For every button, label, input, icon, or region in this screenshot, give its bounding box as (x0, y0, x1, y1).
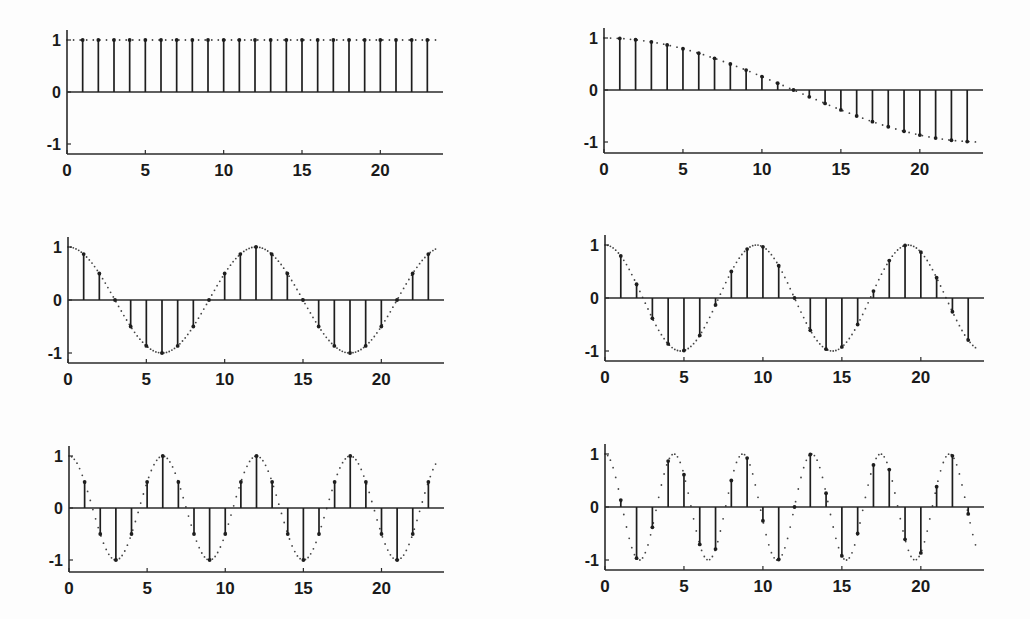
y-tick-label: 0 (590, 499, 599, 516)
stem-marker (332, 344, 336, 348)
stem-marker (714, 547, 718, 551)
stem (776, 81, 780, 90)
stem-marker (395, 558, 399, 562)
stem (903, 507, 907, 541)
stem (856, 298, 860, 326)
stem (130, 508, 134, 536)
stem-marker (761, 519, 765, 523)
stem (777, 264, 781, 298)
stem-marker (650, 525, 654, 529)
stem (378, 38, 382, 92)
stem (145, 480, 149, 508)
stem-marker (744, 68, 748, 72)
stem-marker (128, 38, 132, 42)
x-tick-label: 5 (679, 368, 688, 387)
stem (410, 38, 414, 92)
stem (270, 480, 274, 508)
x-tick-label: 20 (911, 577, 930, 596)
stem-marker (935, 485, 939, 489)
stem (698, 298, 702, 337)
stem (363, 38, 367, 92)
stem-marker (348, 454, 352, 458)
stem (919, 250, 923, 298)
stem-marker (713, 56, 717, 60)
stem (871, 90, 875, 124)
stem-marker (284, 38, 288, 42)
stem-marker (394, 38, 398, 42)
stem-marker (728, 62, 732, 66)
stem-marker (665, 43, 669, 47)
stem (872, 463, 876, 507)
x-tick-label: 5 (142, 579, 151, 598)
stem (98, 508, 102, 536)
panel-row1-right: 10-105101520 (584, 28, 983, 179)
stem (634, 38, 638, 90)
x-tick-label: 20 (911, 368, 930, 387)
stem-marker (348, 351, 352, 355)
y-tick-label: 0 (53, 292, 62, 309)
y-tick-label: 1 (53, 239, 62, 256)
stem (254, 245, 258, 300)
stem-marker (856, 323, 860, 327)
stem-marker (112, 38, 116, 42)
stem (887, 468, 891, 507)
stem (635, 282, 639, 298)
stem-marker (887, 468, 891, 472)
stem-marker (887, 259, 891, 263)
stem (919, 507, 923, 555)
stem-marker (98, 532, 102, 536)
y-tick-label: 1 (590, 446, 599, 463)
x-tick-label: 20 (372, 370, 391, 389)
stem (143, 38, 147, 92)
stem-marker (856, 532, 860, 536)
stem-marker (190, 38, 194, 42)
stem (951, 298, 955, 314)
stem (348, 454, 352, 508)
stem (161, 454, 165, 508)
stem (728, 62, 732, 90)
stem (714, 507, 718, 551)
stem-marker (378, 38, 382, 42)
stem (395, 298, 399, 302)
stem-marker (682, 473, 686, 477)
x-tick-label: 15 (294, 370, 313, 389)
stem (191, 300, 195, 328)
stem-marker (129, 325, 133, 329)
x-tick-label: 0 (599, 160, 608, 179)
stem (317, 508, 321, 536)
stem-marker (823, 102, 827, 106)
stem (823, 90, 827, 105)
stem (650, 298, 654, 320)
stem (856, 507, 860, 535)
stem (364, 300, 368, 348)
stem (301, 298, 305, 302)
stem-marker (144, 344, 148, 348)
y-tick-label: -1 (49, 552, 63, 569)
stem-marker (760, 75, 764, 79)
stem-marker (300, 38, 304, 42)
stem-marker (619, 254, 623, 258)
stem (223, 508, 227, 536)
stem (394, 38, 398, 92)
y-tick-label: 0 (590, 290, 599, 307)
x-tick-label: 10 (216, 579, 235, 598)
stem-marker (839, 108, 843, 112)
y-tick-label: -1 (585, 343, 599, 360)
stem-marker (175, 38, 179, 42)
stem-marker (363, 38, 367, 42)
y-tick-label: 1 (589, 30, 598, 47)
stem (144, 300, 148, 348)
stem-marker (237, 38, 241, 42)
stem (729, 270, 733, 298)
stem-marker (761, 245, 765, 249)
stem (206, 38, 210, 92)
stem-marker (238, 252, 242, 256)
stem-marker (82, 252, 86, 256)
stem-marker (255, 454, 259, 458)
stem (903, 244, 907, 298)
stem-marker (776, 81, 780, 85)
stem (208, 508, 212, 562)
stem-marker (96, 38, 100, 42)
stem-marker (950, 138, 954, 142)
stem (237, 38, 241, 92)
